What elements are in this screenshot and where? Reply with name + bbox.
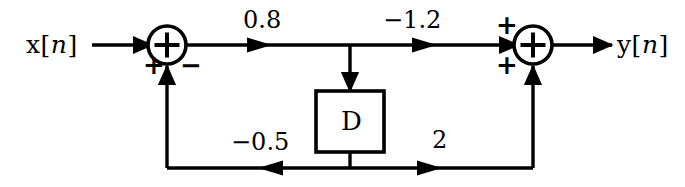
arrowhead-forward-second <box>412 37 437 52</box>
input-signal-label: x[n] <box>26 32 78 57</box>
signal-flow-canvas <box>0 0 685 187</box>
adder-right <box>514 26 552 64</box>
arrowhead-feedforward <box>417 160 442 175</box>
block-diagram: x[n] y[n] 0.8 −1.2 −0.5 2 + − + + D <box>0 0 685 187</box>
output-signal-label: y[n] <box>617 32 669 57</box>
arrowhead-feedback <box>258 160 283 175</box>
gain-label-feedforward: 2 <box>432 128 447 152</box>
adder-right-plus-sign-bottom: + <box>496 52 518 78</box>
delay-block-label: D <box>341 108 362 134</box>
gain-label-forward-second: −1.2 <box>383 8 441 32</box>
arrowhead-forward-first <box>247 37 272 52</box>
gain-label-feedback: −0.5 <box>231 130 289 154</box>
adder-left-minus-sign: − <box>180 52 202 78</box>
gain-label-forward-first: 0.8 <box>243 8 281 32</box>
adder-left-plus-sign: + <box>143 52 165 78</box>
adder-right-plus-sign-top: + <box>496 12 518 38</box>
